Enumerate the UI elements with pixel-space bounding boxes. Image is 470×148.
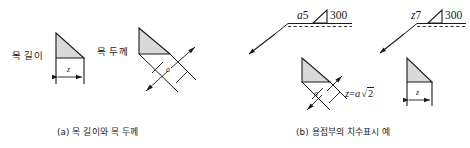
panel-a-throat-length-shape xyxy=(56,33,84,84)
panel-a-throat-thickness-shape xyxy=(139,28,196,92)
throat-relation-formula: z=a√2 xyxy=(345,87,374,100)
weld-size-value-left: 5 xyxy=(303,9,309,21)
weld-symbol-size-left: a5 xyxy=(297,10,309,22)
dimension-tick-far-b xyxy=(329,92,340,103)
panel-a-caption: (a) 목 길이와 목 두께 xyxy=(57,128,138,137)
panel-b-caption: (b) 용접부의 치수표시 예 xyxy=(296,128,390,137)
dimension-label-z-b: z xyxy=(416,89,419,97)
weld-symbol-length-right: 300 xyxy=(445,10,462,22)
weld-size-value-right: 7 xyxy=(415,9,421,21)
leader-arrow-right xyxy=(380,34,404,53)
panel-b-throat-length-shape xyxy=(407,58,432,106)
dimension-label-z-a: z xyxy=(67,66,70,74)
throat-thickness-label: 목 두께 xyxy=(97,47,128,57)
dimension-line-a-upper xyxy=(171,47,195,68)
leader-arrow-left xyxy=(249,34,275,54)
figure-line-art xyxy=(0,0,470,148)
weld-symbol-length-left: 300 xyxy=(330,10,347,22)
dimension-line-a-upper-b xyxy=(327,76,342,91)
panel-b-throat-thickness-shape xyxy=(302,58,347,110)
fillet-weld-symbol-right xyxy=(428,10,442,23)
fillet-weld-symbol-left xyxy=(313,10,327,23)
radicand-value: 2 xyxy=(367,87,374,99)
leader-elbow-left xyxy=(275,24,288,35)
square-root-group: √2 xyxy=(360,87,374,100)
plate-diagonal-lower xyxy=(139,54,178,92)
leader-elbow-right xyxy=(404,24,417,35)
throat-length-label: 목 길이 xyxy=(12,51,43,61)
weld-symbol-size-right: z7 xyxy=(411,10,421,22)
dimension-label-a-b: a xyxy=(314,90,318,98)
welding-throat-figure: 목 길이 z 목 두께 a (a) 목 길이와 목 두께 a5 300 z7 3… xyxy=(0,0,470,148)
dimension-tick-far xyxy=(176,72,187,83)
dimension-line-a-lower xyxy=(146,71,168,91)
dimension-label-a-a: a xyxy=(166,66,170,74)
